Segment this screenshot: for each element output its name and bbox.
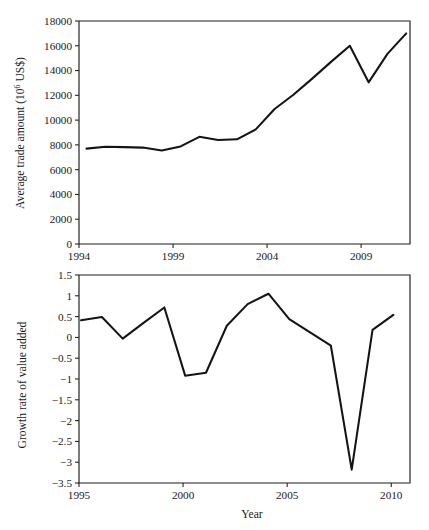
bottom-y-tick-group: −3.5−3−2.5−2−1.5−1−0.500.511.5 bbox=[52, 269, 79, 489]
chart-panel-top: Average trade amount (106 US$) 020004000… bbox=[0, 0, 429, 268]
x-tick-label: 2009 bbox=[350, 250, 373, 262]
y-tick-label: 12000 bbox=[44, 89, 72, 101]
y-tick-label: −0.5 bbox=[52, 352, 73, 364]
x-tick-label: 1994 bbox=[68, 250, 91, 262]
y-tick-label: 0.5 bbox=[58, 311, 72, 323]
y-tick-label: 1 bbox=[66, 290, 72, 302]
chart-panel-bottom: Growth rate of value added Year −3.5−3−2… bbox=[0, 265, 429, 530]
y-tick-label: 18000 bbox=[44, 15, 72, 27]
y-tick-label: 14000 bbox=[44, 64, 72, 76]
x-tick-label: 2004 bbox=[256, 250, 279, 262]
x-tick-label: 2000 bbox=[172, 489, 195, 501]
top-y-tick-group: 0200040006000800010000120001400016000180… bbox=[44, 15, 79, 250]
y-tick-label: 1.5 bbox=[58, 269, 72, 281]
x-tick-label: 1995 bbox=[68, 489, 91, 501]
y-tick-label: 10000 bbox=[44, 114, 72, 126]
top-x-tick-group: 1994199920042009 bbox=[68, 244, 373, 262]
bottom-chart-svg: Growth rate of value added Year −3.5−3−2… bbox=[0, 265, 429, 530]
y-tick-label: 4000 bbox=[50, 188, 73, 200]
y-tick-label: 6000 bbox=[50, 164, 73, 176]
bottom-y-axis-title: Growth rate of value added bbox=[16, 321, 29, 448]
x-tick-label: 2005 bbox=[276, 489, 299, 501]
y-tick-label: −3.5 bbox=[52, 477, 73, 489]
y-tick-label: −3 bbox=[60, 456, 72, 468]
y-tick-label: 16000 bbox=[44, 40, 72, 52]
y-tick-label: −1 bbox=[60, 373, 72, 385]
bottom-data-series bbox=[81, 294, 393, 470]
bottom-x-axis-title: Year bbox=[241, 508, 263, 521]
top-plot-frame bbox=[79, 21, 410, 244]
top-data-series bbox=[87, 33, 407, 150]
top-chart-svg: Average trade amount (106 US$) 020004000… bbox=[0, 0, 429, 268]
x-tick-label: 1999 bbox=[162, 250, 185, 262]
bottom-x-tick-group: 1995200020052010 bbox=[68, 483, 403, 501]
y-tick-label: −2.5 bbox=[52, 435, 73, 447]
y-tick-label: 0 bbox=[66, 238, 72, 250]
x-tick-label: 2010 bbox=[380, 489, 403, 501]
y-tick-label: −1.5 bbox=[52, 394, 73, 406]
y-tick-label: 2000 bbox=[50, 213, 73, 225]
y-tick-label: 8000 bbox=[50, 139, 73, 151]
figure-container: Average trade amount (106 US$) 020004000… bbox=[0, 0, 429, 530]
y-tick-label: 0 bbox=[66, 331, 72, 343]
y-tick-label: −2 bbox=[60, 415, 72, 427]
top-y-axis-title: Average trade amount (106 US$) bbox=[13, 57, 27, 209]
